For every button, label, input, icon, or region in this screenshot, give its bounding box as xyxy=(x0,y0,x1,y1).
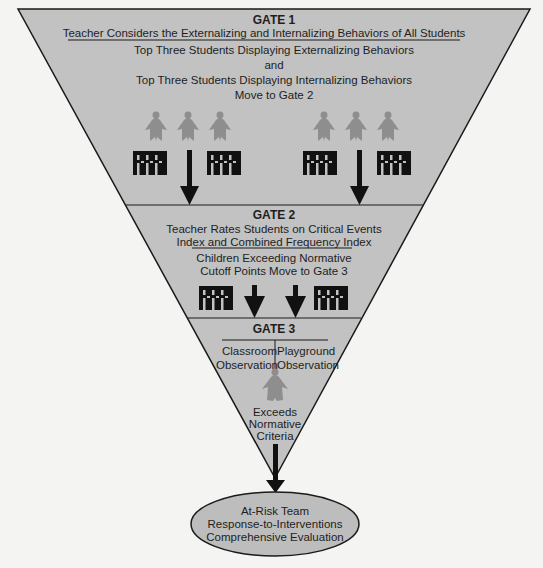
gate2-subtitle-line: Teacher Rates Students on Critical Event… xyxy=(0,223,543,236)
gate2-title: GATE 2 xyxy=(0,209,543,222)
gate3-playground-label: Playground xyxy=(277,345,335,358)
gate3-playground-label: Observation xyxy=(277,359,335,372)
class-roster-icon xyxy=(207,151,241,175)
gate2-line: Cutoff Points Move to Gate 3 xyxy=(0,265,543,278)
result-line: Response-to-Interventions xyxy=(0,518,543,531)
class-roster-icon xyxy=(133,151,167,175)
gate3-outcome-line: Criteria xyxy=(0,430,543,443)
gate3-classroom-label: Observation xyxy=(216,359,274,372)
class-roster-icon xyxy=(199,286,233,310)
multiple-gating-funnel-diagram: GATE 1 Teacher Considers the Externalizi… xyxy=(0,0,543,568)
gate1-line: Top Three Students Displaying Internaliz… xyxy=(0,74,543,87)
result-line: At-Risk Team xyxy=(0,505,543,518)
class-roster-icon xyxy=(303,151,337,175)
class-roster-icon xyxy=(377,151,411,175)
gate1-title: GATE 1 xyxy=(0,14,543,27)
gate1-line: Top Three Students Displaying Externaliz… xyxy=(0,44,543,57)
gate1-line: and xyxy=(0,59,543,72)
gate2-line: Children Exceeding Normative xyxy=(0,252,543,265)
gate1-line: Move to Gate 2 xyxy=(0,89,543,102)
class-roster-icon xyxy=(314,286,348,310)
gate2-subtitle-line: Index and Combined Frequency Index xyxy=(0,236,543,249)
gate3-title: GATE 3 xyxy=(0,323,543,336)
result-line: Comprehensive Evaluation xyxy=(0,531,543,544)
gate3-classroom-label: Classroom xyxy=(222,345,274,358)
gate1-subtitle: Teacher Considers the Externalizing and … xyxy=(0,27,528,40)
